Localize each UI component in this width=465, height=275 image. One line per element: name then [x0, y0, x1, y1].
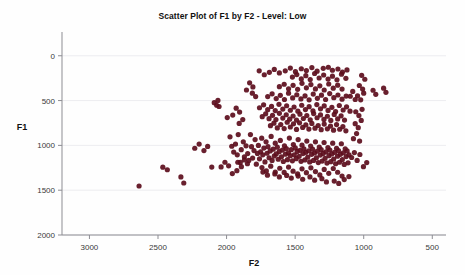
scatter-point [277, 166, 282, 171]
scatter-point [284, 112, 289, 117]
scatter-point [286, 86, 291, 91]
scatter-point [317, 83, 322, 88]
scatter-point [273, 108, 278, 113]
scatter-point [355, 158, 360, 163]
scatter-point [226, 163, 231, 168]
scatter-point [197, 141, 202, 146]
scatter-point [330, 68, 335, 73]
scatter-point [265, 94, 270, 99]
x-axis-title: F2 [249, 258, 260, 268]
scatter-point [316, 123, 321, 128]
scatter-point [248, 132, 253, 137]
scatter-point [181, 180, 186, 185]
scatter-point [356, 125, 361, 130]
scatter-point [201, 148, 206, 153]
scatter-point [270, 158, 275, 163]
scatter-point [335, 92, 340, 97]
scatter-point [209, 164, 214, 169]
scatter-point [356, 113, 361, 118]
scatter-point [349, 155, 354, 160]
scatter-point [257, 68, 262, 73]
scatter-point [244, 87, 249, 92]
y-tick-label: 2000 [37, 231, 55, 240]
scatter-point [308, 82, 313, 87]
scatter-point [299, 76, 304, 81]
scatter-point [321, 72, 326, 77]
scatter-point [350, 89, 355, 94]
scatter-point [290, 74, 295, 79]
scatter-point [304, 170, 309, 175]
scatter-point [339, 86, 344, 91]
scatter-point [329, 105, 334, 110]
x-tick-label: 1000 [355, 243, 373, 252]
scatter-point [270, 91, 275, 96]
scatter-point [322, 87, 327, 92]
scatter-point [192, 146, 197, 151]
scatter-point [352, 150, 357, 155]
scatter-point [278, 138, 283, 143]
scatter-point [314, 102, 319, 107]
scatter-point [323, 97, 328, 102]
scatter-point [288, 66, 293, 71]
scatter-point [325, 114, 330, 119]
scatter-point [307, 174, 312, 179]
scatter-point [269, 134, 274, 139]
scatter-point [313, 139, 318, 144]
scatter-point [243, 143, 248, 148]
scatter-point [319, 127, 324, 132]
scatter-point [233, 141, 238, 146]
scatter-point [247, 80, 252, 85]
scatter-point [227, 134, 232, 139]
scatter-point [274, 96, 279, 101]
scatter-point [286, 164, 291, 169]
scatter-point [358, 97, 363, 102]
scatter-point [325, 76, 330, 81]
scatter-point [306, 126, 311, 131]
scatter-point [334, 122, 339, 127]
scatter-point [295, 87, 300, 92]
scatter-point [318, 112, 323, 117]
scatter-point [236, 132, 241, 137]
scatter-point [299, 66, 304, 71]
scatter-point [322, 167, 327, 172]
y-tick-label: 1000 [37, 141, 55, 150]
scatter-point [357, 152, 362, 157]
scatter-point [240, 117, 245, 122]
scatter-point [235, 152, 240, 157]
scatter-point [283, 68, 288, 73]
scatter-point [276, 102, 281, 107]
scatter-point [235, 160, 240, 165]
scatter-point [290, 169, 295, 174]
scatter-point [335, 170, 340, 175]
scatter-point [237, 121, 242, 126]
scatter-point [287, 135, 292, 140]
scatter-point [299, 81, 304, 86]
scatter-point [331, 128, 336, 133]
scatter-point [282, 82, 287, 87]
scatter-point [312, 178, 317, 183]
scatter-point [333, 109, 338, 114]
scatter-point [277, 174, 282, 179]
scatter-point [336, 181, 341, 186]
scatter-point [315, 96, 320, 101]
scatter-point [335, 66, 340, 71]
scatter-point [136, 183, 141, 188]
scatter-point [362, 77, 367, 82]
scatter-point [335, 83, 340, 88]
scatter-point [239, 164, 244, 169]
scatter-point [310, 108, 315, 113]
scatter-point [309, 65, 314, 70]
scatter-point [338, 113, 343, 118]
scatter-point [344, 67, 349, 72]
scatter-point [290, 83, 295, 88]
scatter-point [328, 118, 333, 123]
scatter-point [307, 104, 312, 109]
scatter-point [339, 97, 344, 102]
x-tick-label: 500 [426, 243, 440, 252]
plot-canvas: 050010001500200030002500200015001000500 … [0, 0, 465, 275]
scatter-point [262, 72, 267, 77]
scatter-point [242, 157, 247, 162]
scatter-point [261, 102, 266, 107]
scatter-point [250, 84, 255, 89]
scatter-point [340, 124, 345, 129]
